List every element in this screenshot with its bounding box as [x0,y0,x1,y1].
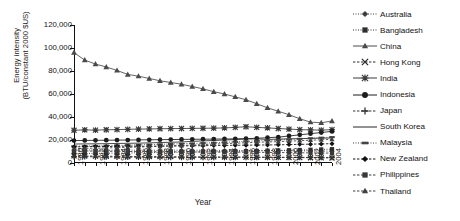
x-tick-label: 2000 [292,148,300,165]
chart-figure: Energy intensity (BTU/constant 2000 $US)… [0,0,460,221]
asterisk-marker [179,126,185,132]
y-tick-label: 60,000 [28,90,72,98]
triangle-icon [352,39,378,53]
legend-item-china[interactable]: China [352,38,460,54]
legend-item-hong-kong[interactable]: Hong Kong [352,54,460,70]
x-tick-label: 2002 [314,148,322,165]
legend-label: Australia [380,10,412,19]
x-tick-label: 1990 [185,148,193,165]
x-tick-label: 1992 [206,148,214,165]
y-tick-mark [70,48,74,49]
square-icon [352,168,378,182]
circle-marker [330,129,335,134]
circle-marker [125,138,130,143]
legend-label: New Zealand [380,154,428,163]
legend-item-australia[interactable]: Australia [352,6,460,22]
square-marker [136,149,140,153]
legend-label: India [380,74,398,83]
asterisk-marker [146,126,152,132]
asterisk-marker [125,126,131,132]
legend-item-philippines[interactable]: Philippines [352,167,460,183]
legend-label: Japan [380,106,402,115]
square-marker [362,28,367,33]
legend-item-new-zealand[interactable]: New Zealand [352,151,460,167]
y-axis-tick-labels: 020,00040,00060,00080,000100,000120,000 [26,0,72,221]
dash-marker [362,141,369,144]
y-tick-mark [70,94,74,95]
legend-label: Thailand [380,187,411,196]
diamond-marker [319,141,324,146]
y-tick-label: 0 [28,159,72,167]
circle-marker [233,136,238,141]
diamond-marker [308,142,313,147]
diamond-icon [352,7,378,21]
asterisk-marker [222,125,228,131]
asterisk-marker [71,127,77,133]
y-tick-label: 80,000 [28,67,72,75]
diamond-marker [362,156,368,162]
legend-label: Hong Kong [380,58,421,67]
x-tick-label: 1988 [163,148,171,165]
y-tick-mark [70,117,74,118]
circle-marker [93,138,98,143]
circle-marker [319,130,324,135]
asterisk-marker [361,75,368,82]
asterisk-marker [168,126,174,132]
y-tick-label: 120,000 [28,21,72,29]
legend-label: South Korea [380,122,425,131]
circle-marker [104,138,109,143]
square-icon [352,23,378,37]
square-marker [362,172,367,177]
asterisk-marker [189,126,195,132]
asterisk-marker [243,124,249,130]
asterisk-marker [157,126,163,132]
series-layer [74,25,332,163]
legend-item-japan[interactable]: Japan [352,103,460,119]
plus-icon [352,104,378,118]
asterisk-marker [114,127,120,133]
legend-label: China [380,42,401,51]
asterisk-marker [211,125,217,131]
asterisk-marker [200,125,206,131]
x-axis-title: Year [74,198,332,207]
asterisk-marker [82,127,88,133]
legend-item-indonesia[interactable]: Indonesia [352,86,460,102]
x-icon [352,55,378,69]
x-tick-label: 1980 [77,148,85,165]
circle-marker [158,137,163,142]
x-tick-label: 1984 [120,148,128,165]
series-india [71,124,335,133]
square-marker [179,150,183,154]
asterisk-marker [93,127,99,133]
diamond-marker [297,142,302,147]
circle-marker [147,137,152,142]
legend-label: Philippines [380,170,419,179]
asterisk-marker [265,125,271,131]
y-tick-mark [70,140,74,141]
legend-label: Indonesia [380,90,415,99]
y-tick-mark [70,25,74,26]
x-tick-label: 1994 [228,148,236,165]
none-icon [352,120,378,134]
legend-item-south-korea[interactable]: South Korea [352,119,460,135]
circle-marker [362,92,368,98]
dash-icon [352,136,378,150]
triangle-marker [82,57,88,62]
diamond-marker [362,11,368,17]
plus-marker [361,107,368,114]
diamond-marker [330,141,335,146]
asterisk-marker [286,126,292,132]
square-marker [265,150,269,154]
legend-item-india[interactable]: India [352,70,460,86]
y-tick-mark [70,71,74,72]
y-tick-label: 100,000 [28,44,72,52]
y-tick-label: 40,000 [28,113,72,121]
legend-item-thailand[interactable]: Thailand [352,183,460,199]
legend-item-malaysia[interactable]: Malaysia [352,135,460,151]
chart-legend: AustraliaBangladeshChinaHong KongIndiaIn… [352,6,460,199]
circle-marker [222,137,227,142]
asterisk-marker [297,127,303,133]
legend-label: Bangladesh [380,26,423,35]
legend-item-bangladesh[interactable]: Bangladesh [352,22,460,38]
circle-marker [179,137,184,142]
